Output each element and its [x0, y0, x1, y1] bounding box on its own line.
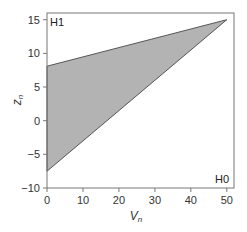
x-tick-label: 30	[149, 194, 161, 206]
h1-label: H1	[50, 16, 64, 28]
x-tick-label: 40	[185, 194, 197, 206]
y-tick-label: 0	[34, 115, 40, 127]
y-tick-label: −5	[27, 148, 40, 160]
y-tick-label: 5	[34, 81, 40, 93]
x-tick-label: 20	[113, 194, 125, 206]
y-axis	[43, 20, 47, 188]
chart: −10 −5 0 5 10 15 0 10 20 30 40 50 Vn zn …	[0, 0, 247, 232]
x-tick-labels: 0 10 20 30 40 50	[44, 194, 233, 206]
y-tick-labels: −10 −5 0 5 10 15	[21, 14, 40, 194]
x-tick-label: 0	[44, 194, 50, 206]
y-tick-label: 15	[28, 14, 40, 26]
h0-label: H0	[215, 173, 229, 185]
x-axis-label: Vn	[130, 209, 143, 224]
y-tick-label: 10	[28, 47, 40, 59]
x-tick-label: 10	[77, 194, 89, 206]
x-axis	[47, 188, 227, 192]
y-tick-label: −10	[21, 182, 40, 194]
shaded-region	[47, 20, 227, 172]
y-axis-label: zn	[10, 94, 25, 106]
x-tick-label: 50	[221, 194, 233, 206]
